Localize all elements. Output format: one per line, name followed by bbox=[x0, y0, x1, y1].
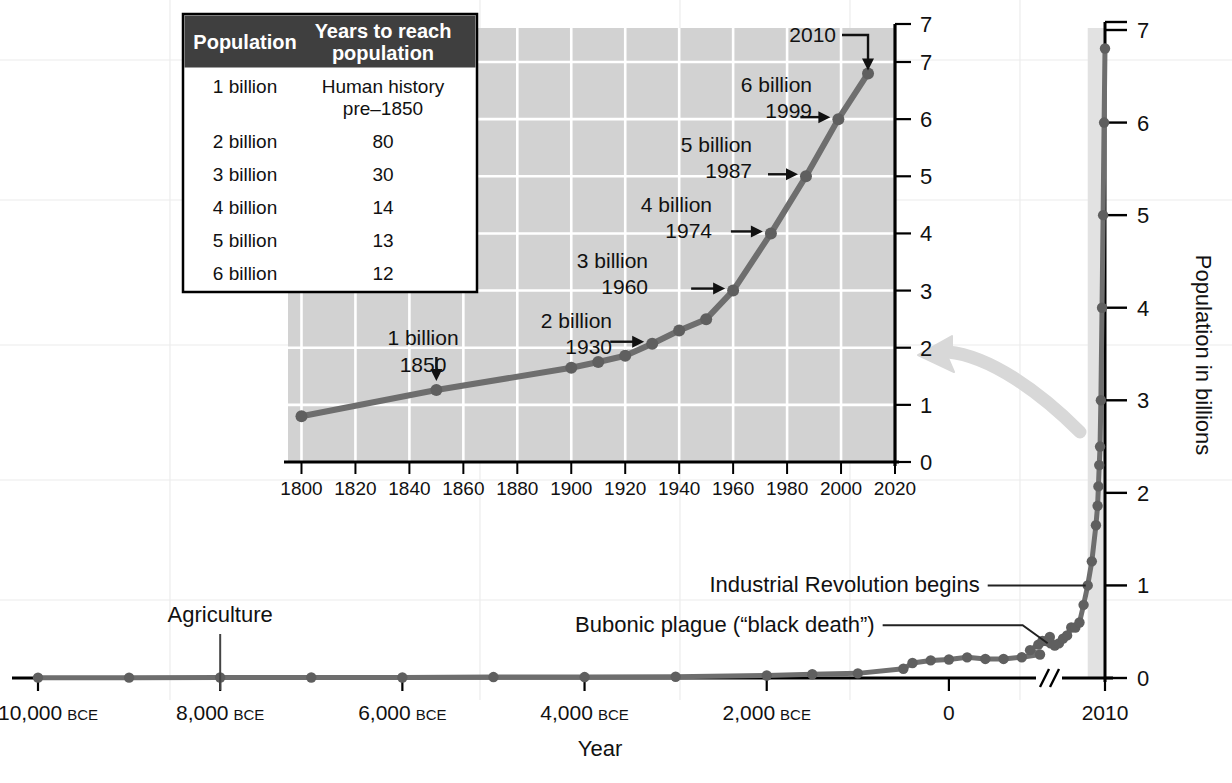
x-tick-label: 10,000BCE bbox=[0, 701, 98, 724]
inset-x-tick-label: 1820 bbox=[334, 478, 376, 499]
inset-annotation-5billion-year: 1987 bbox=[705, 159, 752, 182]
inset-y-tick-label: 1 bbox=[920, 393, 932, 418]
table-cell-years: 13 bbox=[372, 230, 393, 251]
table-cell-population: 5 billion bbox=[213, 230, 277, 251]
main-annotations: AgricultureBubonic plague (“black death”… bbox=[168, 572, 1086, 690]
data-point bbox=[1093, 481, 1103, 491]
table-header-years-line2: population bbox=[332, 42, 434, 64]
inset-x-tick-label: 1920 bbox=[604, 478, 646, 499]
data-point bbox=[1098, 210, 1108, 220]
data-point bbox=[397, 672, 407, 682]
data-point bbox=[1078, 600, 1088, 610]
axis-break-mark bbox=[1036, 669, 1062, 687]
inset-annotation-2billion-label: 2 billion bbox=[541, 309, 612, 332]
main-x-axis-title: Year bbox=[578, 736, 622, 761]
inset-y-tick-label: 5 bbox=[920, 164, 932, 189]
inset-annotation-3billion-year: 1960 bbox=[601, 275, 648, 298]
inset-x-tick-label: 1900 bbox=[550, 478, 592, 499]
data-point bbox=[962, 652, 972, 662]
y-tick-label: 5 bbox=[1137, 203, 1149, 228]
table-cell-years: 80 bbox=[372, 131, 393, 152]
data-point bbox=[807, 669, 817, 679]
main-y-axis-title: Population in billions bbox=[1191, 255, 1216, 456]
data-point bbox=[898, 664, 908, 674]
inset-data-point bbox=[727, 285, 739, 297]
inset-annotation-4billion-label: 4 billion bbox=[641, 193, 712, 216]
inset-y-ticks: 01234567 bbox=[895, 50, 932, 475]
x-tick-label: 6,000BCE bbox=[358, 701, 446, 724]
x-tick-label: 2,000BCE bbox=[723, 701, 811, 724]
inset-y-tick-label: 3 bbox=[920, 279, 932, 304]
data-point bbox=[579, 672, 589, 682]
table-cell-population: 1 billion bbox=[213, 76, 277, 97]
inset-data-point bbox=[619, 350, 631, 362]
inset-x-tick-label: 1880 bbox=[496, 478, 538, 499]
y-tick-label: 6 bbox=[1137, 111, 1149, 136]
inset-x-tick-label: 1840 bbox=[388, 478, 430, 499]
inset-y-tick-label: 2 bbox=[920, 336, 932, 361]
inset-annotation-2billion-year: 1930 bbox=[565, 335, 612, 358]
inset-annotation-1billion-label: 1 billion bbox=[387, 326, 458, 349]
inset-annotation-6billion-label: 6 billion bbox=[741, 73, 812, 96]
data-point bbox=[33, 672, 43, 682]
y-tick-label: 0 bbox=[1137, 666, 1149, 691]
annotation-agriculture: Agriculture bbox=[168, 602, 273, 627]
x-tick-label: 2010 bbox=[1082, 701, 1129, 724]
inset-x-tick-label: 1960 bbox=[712, 478, 754, 499]
x-tick-label: 8,000BCE bbox=[176, 701, 264, 724]
inset-y-tick-label: 4 bbox=[920, 221, 932, 246]
inset-x-tick-label: 1980 bbox=[766, 478, 808, 499]
inset-annotation-5billion-label: 5 billion bbox=[681, 133, 752, 156]
data-point bbox=[306, 672, 316, 682]
population-milestones-table: PopulationYears to reachpopulation1 bill… bbox=[183, 14, 477, 292]
inset-annotation-3billion-label: 3 billion bbox=[577, 249, 648, 272]
y-tick-label: 4 bbox=[1137, 296, 1149, 321]
table-cell-years-line2: pre–1850 bbox=[343, 98, 423, 119]
data-point bbox=[1096, 395, 1106, 405]
table-header-years-line1: Years to reach bbox=[315, 20, 452, 42]
data-point bbox=[1094, 460, 1104, 470]
data-point bbox=[124, 672, 134, 682]
data-point bbox=[1091, 520, 1101, 530]
inset-data-point bbox=[430, 384, 442, 396]
inset-data-point bbox=[700, 313, 712, 325]
data-point bbox=[1100, 43, 1110, 53]
data-point bbox=[1099, 117, 1109, 127]
data-point bbox=[944, 654, 954, 664]
inset-y-tick-label: 7 bbox=[920, 50, 932, 75]
data-point bbox=[670, 672, 680, 682]
inset-data-point bbox=[565, 362, 577, 374]
inset-data-point bbox=[646, 338, 658, 350]
inset-x-tick-label: 2000 bbox=[820, 478, 862, 499]
table-cell-years: Human history bbox=[322, 76, 445, 97]
main-y-ticks: 01234567 bbox=[1105, 18, 1149, 691]
data-point bbox=[853, 668, 863, 678]
table-cell-years: 12 bbox=[372, 263, 393, 284]
y-tick-label: 1 bbox=[1137, 573, 1149, 598]
inset-data-point bbox=[673, 325, 685, 337]
y-tick-label: 3 bbox=[1137, 388, 1149, 413]
data-point bbox=[925, 655, 935, 665]
inset-x-tick-label: 1940 bbox=[658, 478, 700, 499]
inset-data-point bbox=[295, 410, 307, 422]
table-header-population: Population bbox=[193, 31, 296, 53]
data-point bbox=[488, 672, 498, 682]
data-point bbox=[1092, 501, 1102, 511]
table-cell-population: 3 billion bbox=[213, 164, 277, 185]
inset-x-tick-label: 1800 bbox=[280, 478, 322, 499]
data-point bbox=[1074, 617, 1084, 627]
inset-x-tick-label: 2020 bbox=[874, 478, 916, 499]
callout-arrow bbox=[918, 336, 1080, 432]
inset-data-point bbox=[800, 170, 812, 182]
x-tick-label: 4,000BCE bbox=[540, 701, 628, 724]
inset-annotation-6billion-year: 1999 bbox=[765, 99, 812, 122]
population-growth-figure: 10,000BCE8,000BCE6,000BCE4,000BCE2,000BC… bbox=[0, 0, 1232, 783]
main-x-ticks: 10,000BCE8,000BCE6,000BCE4,000BCE2,000BC… bbox=[0, 678, 1128, 724]
y-tick-label: 2 bbox=[1137, 481, 1149, 506]
inset-annotation-4billion-year: 1974 bbox=[665, 219, 712, 242]
data-point bbox=[1097, 303, 1107, 313]
inset-y-tick-label: 0 bbox=[920, 450, 932, 475]
data-point bbox=[762, 670, 772, 680]
table-cell-years: 14 bbox=[372, 197, 394, 218]
x-tick-label: 0 bbox=[943, 701, 955, 724]
